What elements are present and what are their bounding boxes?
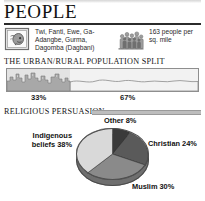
rural-percent-label: 67%: [120, 93, 135, 102]
title-underline: [4, 23, 201, 25]
speaking-head-icon: [4, 27, 30, 51]
languages-text: Twi, Fanti, Ewe, Ga-Adangbe, Gurma, Dago…: [35, 27, 112, 53]
pie-label-other: Other 8%: [104, 116, 136, 125]
religion-heading-rule: [92, 110, 201, 115]
urban-rural-split-bar: [6, 68, 199, 92]
urban-percent-label: 33%: [31, 93, 46, 102]
urban-rural-heading: THE URBAN/RURAL POPULATION SPLIT: [4, 57, 165, 66]
pie-outline: [76, 128, 149, 180]
people-infographic-page: PEOPLE Twi, Fanti, Ewe, Ga-Adangbe, Gurm…: [0, 0, 205, 201]
pie-label-christian: Christian 24%: [148, 139, 197, 148]
pie-label-muslim: Muslim 30%: [132, 182, 174, 191]
languages-fact: Twi, Fanti, Ewe, Ga-Adangbe, Gurma, Dago…: [4, 27, 112, 53]
population-density-fact: 163 people per sq. mile: [118, 27, 203, 51]
religion-heading: RELIGIOUS PERSUASION: [4, 107, 105, 116]
page-title: PEOPLE: [4, 2, 201, 22]
pie-label-indigenous: Indigenous beliefs 38%: [10, 131, 72, 149]
crowd-of-people-icon: [118, 27, 144, 51]
population-density-text: 163 people per sq. mile: [149, 27, 203, 44]
